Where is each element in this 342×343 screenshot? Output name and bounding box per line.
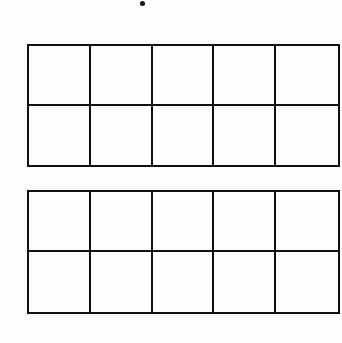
ten-frame-top bbox=[27, 44, 340, 167]
ten-frame-cell bbox=[29, 192, 91, 252]
ten-frame-cell bbox=[91, 252, 153, 312]
ten-frame-cell bbox=[91, 46, 153, 106]
ten-frame-cell bbox=[276, 192, 338, 252]
ten-frame-bottom bbox=[27, 190, 340, 314]
ten-frame-cell bbox=[276, 106, 338, 166]
ten-frame-cell bbox=[29, 106, 91, 166]
ten-frame-cell bbox=[276, 46, 338, 106]
ten-frame-cell bbox=[91, 106, 153, 166]
ten-frame-cell bbox=[91, 192, 153, 252]
ten-frame-cell bbox=[29, 252, 91, 312]
ten-frame-cell bbox=[153, 106, 215, 166]
worksheet-page bbox=[0, 0, 342, 343]
ten-frame-cell bbox=[214, 46, 276, 106]
ten-frame-cell bbox=[153, 252, 215, 312]
dot-marker-icon bbox=[140, 1, 145, 6]
ten-frame-cell bbox=[214, 192, 276, 252]
ten-frame-cell bbox=[276, 252, 338, 312]
ten-frame-cell bbox=[29, 46, 91, 106]
ten-frame-cell bbox=[153, 192, 215, 252]
ten-frame-cell bbox=[214, 252, 276, 312]
ten-frame-cell bbox=[153, 46, 215, 106]
ten-frame-cell bbox=[214, 106, 276, 166]
